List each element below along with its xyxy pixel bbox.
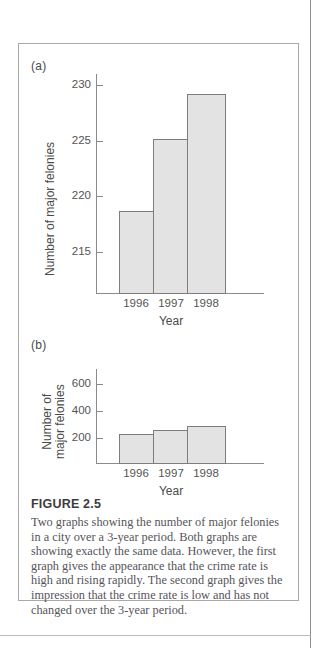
panel-b-label: (b)	[31, 338, 47, 352]
chart-b-ytick-400	[97, 411, 103, 412]
chart-b-bar-1998	[187, 426, 226, 464]
panel-a-label: (a)	[31, 59, 47, 73]
chart-a-xticklabel-1998: 1998	[187, 297, 225, 309]
figure-frame: (a) 230 225 220 215 1996 1997 1998 Year …	[18, 43, 299, 601]
chart-b-bar-1997	[153, 430, 188, 464]
figure-caption: Two graphs showing the number of major f…	[31, 515, 289, 617]
chart-a-yticklabel-215: 215	[55, 245, 91, 257]
chart-a-xticklabel-1997: 1997	[152, 297, 190, 309]
chart-a-xticklabel-1996: 1996	[117, 297, 155, 309]
page-edge-rule	[310, 0, 311, 648]
figure-number-label: FIGURE 2.5	[31, 497, 101, 511]
chart-a-y-axis-title: Number of major felonies	[43, 142, 57, 276]
chart-b-xticklabel-1996: 1996	[117, 467, 155, 479]
page-bottom-rule	[0, 635, 311, 636]
chart-b-ytick-600	[97, 384, 103, 385]
chart-b-y-axis-title: Number of major felonies	[41, 384, 66, 459]
chart-b-x-axis-title: Year	[136, 484, 206, 498]
chart-a-yticklabel-225: 225	[55, 134, 91, 146]
figure-page: (a) 230 225 220 215 1996 1997 1998 Year …	[0, 0, 317, 648]
chart-a-bar-1998	[187, 94, 226, 294]
chart-b-xticklabel-1997: 1997	[152, 467, 190, 479]
chart-a-bar-1997	[153, 139, 188, 294]
chart-b-ytick-200	[97, 438, 103, 439]
chart-a-ytick-215	[97, 252, 103, 253]
chart-a-yticklabel-220: 220	[55, 189, 91, 201]
chart-a-ytick-225	[97, 141, 103, 142]
chart-b-bar-1996	[119, 434, 154, 464]
chart-a-bar-1996	[119, 211, 154, 294]
chart-a-ytick-230	[97, 85, 103, 86]
chart-b-y-axis-title-line2: major felonies	[53, 384, 67, 459]
chart-a-y-axis	[96, 74, 97, 294]
chart-a-ytick-220	[97, 196, 103, 197]
chart-b-xticklabel-1998: 1998	[187, 467, 225, 479]
chart-a-x-axis-title: Year	[136, 314, 206, 328]
chart-a-yticklabel-230: 230	[55, 78, 91, 90]
